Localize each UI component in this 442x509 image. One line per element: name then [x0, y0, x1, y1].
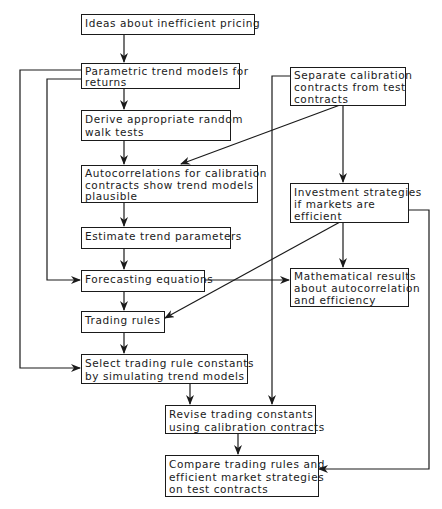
node-text: Estimate trend parameters [85, 230, 227, 243]
node-text: Derive appropriate random [85, 113, 227, 126]
node-text: efficient [294, 210, 405, 222]
node-mathematical: Mathematical results about autocorrelati… [290, 268, 409, 307]
node-text: Trading rules [85, 314, 161, 327]
node-text: Revise trading constants [169, 408, 312, 421]
node-text: Investment strategies [294, 186, 405, 198]
node-parametric: Parametric trend models for returns [81, 63, 240, 89]
node-text: plausible [85, 191, 254, 203]
node-text: about autocorrelation [294, 283, 405, 295]
node-text: if markets are [294, 198, 405, 210]
edge-separate-revise [272, 76, 290, 404]
node-trading-rules: Trading rules [81, 311, 165, 333]
node-text: efficient market strategies [169, 471, 315, 484]
node-text: contracts from test [294, 82, 402, 94]
node-text: Compare trading rules and [169, 458, 315, 471]
edge-parametric-forecasting [47, 79, 81, 280]
node-text: and efficiency [294, 295, 405, 307]
node-autocorrelations: Autocorrelations for calibration contrac… [81, 165, 258, 203]
node-text: using calibration contracts [169, 421, 312, 434]
node-separate: Separate calibration contracts from test… [290, 67, 406, 106]
edge-parametric-select [20, 70, 81, 368]
node-text: Autocorrelations for calibration [85, 168, 254, 180]
node-text: Select trading rule constants [85, 357, 244, 370]
node-revise: Revise trading constants using calibrati… [165, 405, 316, 434]
node-text: Ideas about inefficient pricing [85, 17, 251, 30]
node-derive: Derive appropriate random walk tests [81, 110, 231, 141]
node-text: returns [85, 77, 236, 88]
node-text: walk tests [85, 126, 227, 139]
edge-investment-compare [319, 210, 429, 469]
node-text: contracts [294, 94, 402, 106]
node-compare: Compare trading rules and efficient mark… [165, 455, 319, 497]
node-estimate: Estimate trend parameters [81, 227, 231, 249]
node-text: Forecasting equations [85, 273, 201, 286]
node-select: Select trading rule constants by simulat… [81, 354, 248, 384]
node-forecasting: Forecasting equations [81, 270, 205, 292]
node-text: by simulating trend models [85, 370, 244, 383]
node-ideas: Ideas about inefficient pricing [81, 14, 255, 35]
node-text: on test contracts [169, 483, 315, 496]
node-investment: Investment strategies if markets are eff… [290, 183, 409, 223]
